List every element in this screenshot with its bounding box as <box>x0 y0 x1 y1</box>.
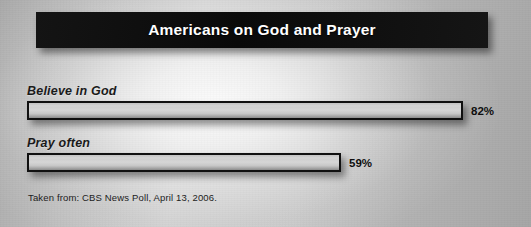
bar-track <box>27 153 341 172</box>
bar-line: 59% <box>27 153 372 172</box>
source-footnote: Taken from: CBS News Poll, April 13, 200… <box>28 192 217 203</box>
bar-row: Pray often 59% <box>27 136 372 172</box>
bar-line: 82% <box>27 101 494 120</box>
page-title: Americans on God and Prayer <box>148 21 376 39</box>
bar-row: Believe in God 82% <box>27 84 494 120</box>
bar-value-label: 82% <box>471 105 494 117</box>
bar-value-label: 59% <box>349 157 372 169</box>
bar-label: Believe in God <box>27 84 494 98</box>
title-banner: Americans on God and Prayer <box>36 12 488 48</box>
chart-card: Americans on God and Prayer Believe in G… <box>0 0 531 227</box>
bar-track <box>27 101 463 120</box>
bar-label: Pray often <box>27 136 372 150</box>
